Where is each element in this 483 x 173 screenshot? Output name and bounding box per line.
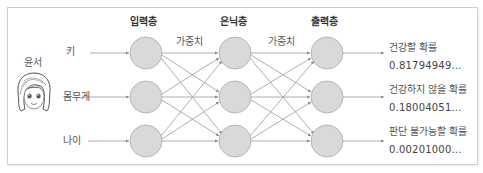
person-name: 윤서 — [24, 57, 42, 69]
input-label-weight: 몸무게 — [63, 91, 90, 103]
hidden-node-3 — [219, 125, 251, 157]
input-node-2 — [130, 81, 162, 113]
output-value-unhealthy: 0.18004051... — [389, 102, 462, 114]
hidden-output-edges — [250, 53, 314, 141]
input-label-height: 키 — [66, 46, 75, 58]
girl-face-icon — [15, 71, 53, 113]
output-node-3 — [311, 125, 343, 157]
output-node-2 — [311, 81, 343, 113]
input-label-age: 나이 — [63, 135, 81, 147]
weights-label-2: 가중치 — [268, 36, 295, 48]
hidden-node-1 — [219, 37, 251, 69]
input-node-3 — [130, 125, 162, 157]
output-arrows — [343, 53, 384, 141]
weights-label-1: 가중치 — [176, 36, 203, 48]
output-layer-title: 출력층 — [311, 16, 338, 28]
hidden-layer-title: 은닉층 — [220, 16, 247, 28]
output-label-healthy: 건강할 확률 — [389, 42, 437, 54]
output-value-undetermined: 0.00201000... — [389, 144, 462, 156]
output-value-healthy: 0.81794949... — [389, 60, 462, 72]
output-label-undetermined: 판단 불가능할 확률 — [389, 126, 467, 138]
input-node-1 — [130, 37, 162, 69]
output-node-1 — [311, 37, 343, 69]
input-layer-title: 입력층 — [130, 16, 157, 28]
hidden-node-2 — [219, 81, 251, 113]
output-label-unhealthy: 건강하지 않을 확률 — [389, 84, 467, 96]
input-hidden-edges — [161, 53, 222, 141]
